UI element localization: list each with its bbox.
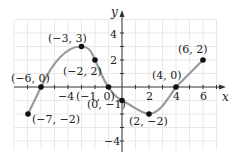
x-tick-label: 6: [200, 90, 207, 103]
annotation-neg3-3: (−3, 3): [48, 32, 87, 45]
annotation-neg2-2: (−2, 2): [63, 65, 102, 78]
x-tick-label: 4: [173, 90, 180, 103]
point-neg6-0: [38, 84, 44, 90]
annotation-2-neg2: (2, −2): [129, 115, 168, 128]
x-tick-label: −4: [58, 90, 74, 103]
annotation-4-0: (4, 0): [152, 69, 182, 82]
y-tick-label: 2: [110, 54, 117, 67]
x-axis-label: x: [222, 90, 229, 104]
point-6-2: [200, 57, 206, 63]
point-neg2-2: [92, 57, 98, 63]
point-neg7-neg2: [25, 111, 31, 117]
function-graph: −4 2 4 6 4 2 −4 x y (−7, −2) (−6, 0) (−3…: [0, 0, 235, 157]
y-tick-label: 4: [110, 28, 117, 41]
x-tick-label: 2: [146, 90, 153, 103]
y-axis-label: y: [110, 5, 118, 19]
point-neg1-0: [106, 84, 112, 90]
point-4-0: [173, 84, 179, 90]
y-tick-label: −4: [104, 135, 120, 148]
annotation-0-neg1: (0, −1): [87, 98, 126, 111]
annotation-neg7-neg2: (−7, −2): [32, 113, 80, 126]
annotation-neg6-0: (−6, 0): [11, 72, 50, 85]
annotation-6-2: (6, 2): [178, 43, 208, 56]
